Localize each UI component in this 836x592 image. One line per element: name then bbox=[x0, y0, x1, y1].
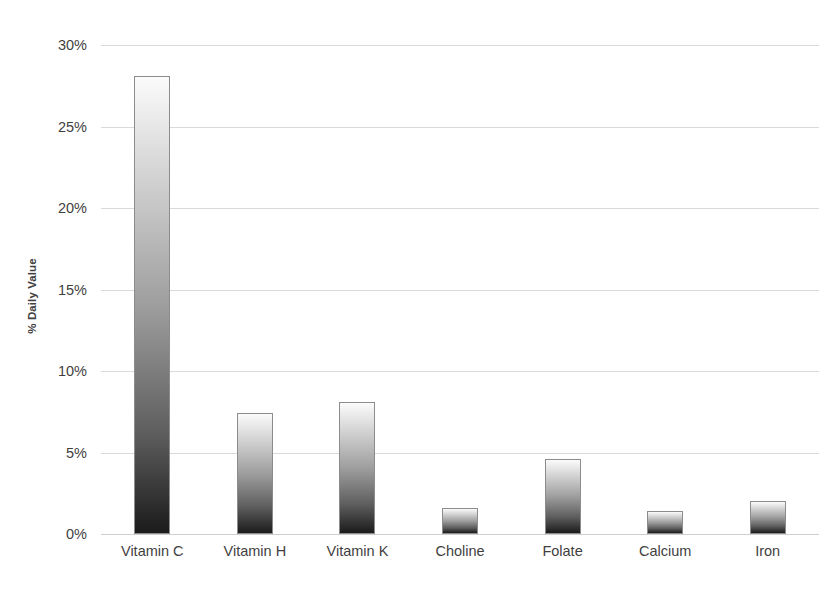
x-axis-tick-label: Calcium bbox=[639, 543, 691, 559]
y-axis-tick-label: 30% bbox=[33, 37, 87, 53]
bars-layer bbox=[101, 45, 819, 534]
y-axis-tick-label: 5% bbox=[33, 445, 87, 461]
bar-slot bbox=[306, 45, 409, 534]
x-axis-tick-label: Folate bbox=[542, 543, 582, 559]
bar-slot bbox=[101, 45, 204, 534]
y-axis-tick-label: 15% bbox=[33, 282, 87, 298]
bar-slot bbox=[511, 45, 614, 534]
bar[interactable] bbox=[647, 511, 683, 534]
x-axis-tick-label: Vitamin C bbox=[121, 543, 184, 559]
y-axis-tick-label: 10% bbox=[33, 363, 87, 379]
bar-chart: % Daily Value 0%5%10%15%20%25%30% Vitami… bbox=[0, 0, 836, 592]
x-axis-tick-label: Vitamin H bbox=[224, 543, 287, 559]
bar[interactable] bbox=[442, 508, 478, 534]
bar[interactable] bbox=[237, 413, 273, 534]
y-axis-tick-label: 25% bbox=[33, 119, 87, 135]
bar-slot bbox=[409, 45, 512, 534]
bar-slot bbox=[204, 45, 307, 534]
bar[interactable] bbox=[750, 501, 786, 534]
bar[interactable] bbox=[339, 402, 375, 534]
x-axis-tick-label: Iron bbox=[755, 543, 780, 559]
bar-slot bbox=[716, 45, 819, 534]
y-axis-tick-label: 0% bbox=[33, 526, 87, 542]
y-axis-tick-labels: 0%5%10%15%20%25%30% bbox=[33, 45, 87, 534]
bar[interactable] bbox=[545, 459, 581, 534]
bar[interactable] bbox=[134, 76, 170, 534]
x-axis-tick-label: Vitamin K bbox=[327, 543, 389, 559]
bar-slot bbox=[614, 45, 717, 534]
gridline bbox=[101, 534, 819, 535]
y-axis-tick-label: 20% bbox=[33, 200, 87, 216]
x-axis-tick-label: Choline bbox=[435, 543, 484, 559]
x-axis-tick-labels: Vitamin CVitamin HVitamin KCholineFolate… bbox=[101, 543, 819, 573]
